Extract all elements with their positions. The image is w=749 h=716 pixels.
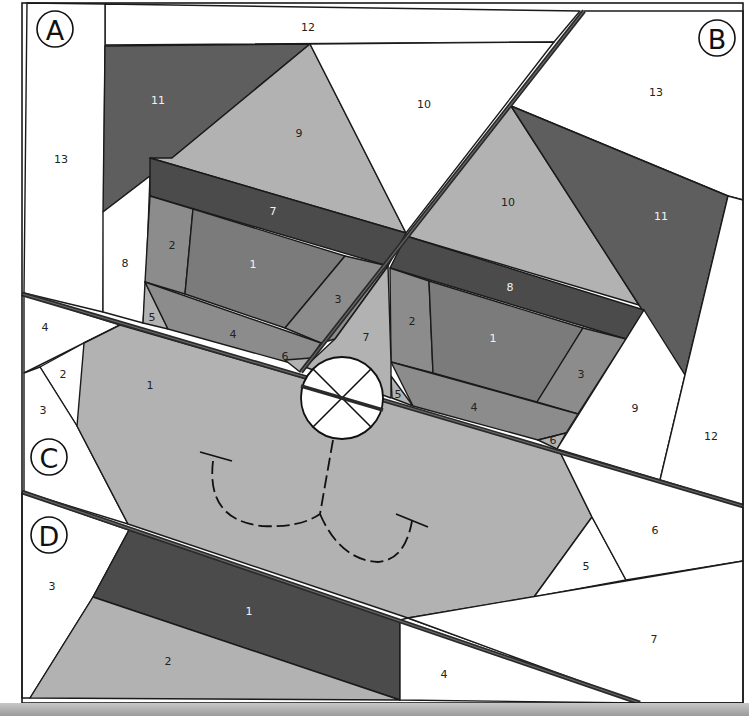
section-badge-c: C: [31, 439, 67, 475]
piece-number-label: 4: [471, 401, 478, 414]
piece-number-label: 6: [652, 524, 659, 537]
piece-number-label: 1: [246, 605, 253, 618]
piece-number-label: 5: [149, 311, 156, 324]
section-badge-a: A: [37, 11, 73, 47]
piece-number-label: 6: [282, 350, 289, 363]
pattern-canvas: 1213119108721354613101182135469127423156…: [0, 0, 749, 716]
piece-number-label: 3: [335, 293, 342, 306]
section-letter: D: [39, 521, 60, 552]
section-letter: A: [46, 15, 65, 46]
piece-number-label: 7: [270, 205, 277, 218]
piece-number-label: 7: [363, 331, 370, 344]
piece-number-label: 2: [60, 368, 67, 381]
piece-number-label: 9: [296, 127, 303, 140]
piece-number-label: 2: [169, 239, 176, 252]
piece-number-label: 11: [654, 210, 668, 223]
piece-number-label: 9: [632, 402, 639, 415]
piece-number-label: 7: [651, 633, 658, 646]
piece-number-label: 4: [441, 668, 448, 681]
piece-a-12: [105, 4, 580, 45]
piece-number-label: 11: [151, 94, 165, 107]
piece-number-label: 2: [165, 655, 172, 668]
piece-number-label: 4: [230, 328, 237, 341]
piece-number-label: 8: [122, 257, 129, 270]
piece-number-label: 13: [649, 86, 663, 99]
piece-number-label: 13: [54, 153, 68, 166]
piece-number-label: 3: [49, 580, 56, 593]
piece-number-label: 1: [147, 379, 154, 392]
piece-number-label: 1: [250, 258, 257, 271]
section-badge-d: D: [31, 517, 67, 553]
section-badge-b: B: [699, 20, 735, 56]
piece-number-label: 10: [501, 196, 515, 209]
page-edge-shadow: [0, 703, 749, 716]
piece-number-label: 12: [301, 21, 315, 34]
quilt-pattern-diagram: 1213119108721354613101182135469127423156…: [0, 0, 749, 716]
piece-number-label: 3: [40, 404, 47, 417]
pieces-layer: [22, 3, 743, 703]
nose-circle-icon: [301, 357, 383, 439]
section-letter: B: [708, 24, 727, 55]
piece-number-label: 4: [42, 321, 49, 334]
piece-number-label: 8: [507, 281, 514, 294]
piece-number-label: 12: [704, 430, 718, 443]
piece-number-label: 5: [395, 388, 402, 401]
piece-number-label: 1: [490, 332, 497, 345]
piece-number-label: 10: [417, 98, 431, 111]
section-letter: C: [40, 443, 59, 474]
piece-number-label: 2: [409, 315, 416, 328]
piece-number-label: 5: [583, 560, 590, 573]
piece-number-label: 3: [578, 368, 585, 381]
piece-number-label: 6: [550, 434, 557, 447]
